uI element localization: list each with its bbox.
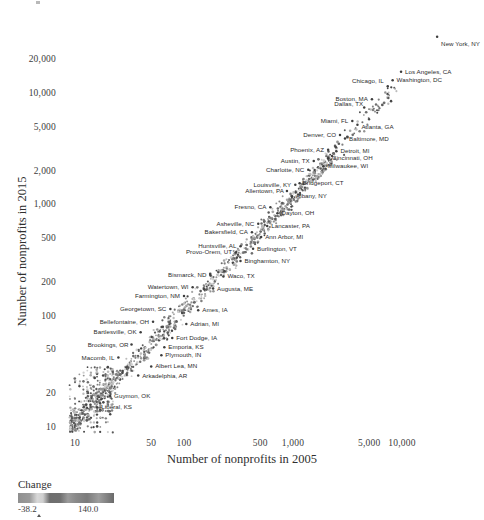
scatter-point — [176, 321, 178, 323]
scatter-point — [292, 191, 294, 193]
colorbar-min-label: -38.2 — [18, 504, 37, 514]
scatter-point — [96, 398, 98, 400]
scatter-point — [252, 235, 254, 237]
scatter-point — [184, 309, 186, 311]
point-label: Dayton, OH — [281, 210, 314, 216]
scatter-point — [209, 284, 211, 286]
scatter-point — [313, 172, 316, 175]
scatter-point — [152, 321, 155, 324]
scatter-point — [306, 175, 308, 177]
scatter-point — [153, 329, 155, 331]
scatter-point — [96, 406, 99, 409]
scatter-point — [163, 346, 166, 349]
scatter-point — [210, 275, 213, 278]
scatter-point — [210, 285, 212, 287]
scatter-point — [86, 407, 88, 409]
scatter-point — [314, 171, 316, 173]
scatter-point — [90, 371, 92, 373]
scatter-point — [277, 210, 279, 212]
scatter-point — [107, 396, 109, 398]
scatter-point — [75, 417, 77, 419]
scatter-point — [191, 286, 194, 289]
scatter-point — [322, 159, 325, 162]
scatter-point — [75, 428, 78, 431]
scatter-point — [73, 410, 76, 413]
scatter-point — [145, 347, 147, 349]
scatter-point — [72, 428, 75, 431]
scatter-point — [84, 408, 87, 411]
scatter-point — [96, 404, 98, 406]
scatter-point — [155, 344, 157, 346]
scatter-point — [250, 236, 252, 238]
scatter-point — [87, 395, 89, 397]
y-tick-20: 20 — [46, 388, 56, 398]
scatter-point — [232, 254, 234, 256]
scatter-point — [74, 398, 76, 400]
scatter-point — [114, 386, 116, 388]
scatter-point — [225, 266, 228, 269]
scatter-point — [89, 404, 92, 407]
scatter-point — [89, 406, 92, 409]
scatter-point — [233, 263, 236, 266]
scatter-point — [77, 414, 79, 416]
scatter-point — [116, 383, 118, 385]
scatter-point — [259, 233, 261, 235]
scatter-point — [107, 394, 109, 396]
scatter-point — [234, 259, 236, 261]
scatter-point — [370, 108, 372, 110]
scatter-point — [269, 217, 272, 220]
scatter-point — [104, 385, 107, 388]
scatter-point — [280, 205, 282, 207]
scatter-point — [387, 87, 389, 89]
scatter-point — [104, 378, 106, 380]
scatter-point — [103, 388, 105, 390]
scatter-point — [288, 197, 290, 199]
scatter-point — [85, 407, 87, 409]
scatter-point — [149, 339, 151, 341]
scatter-point — [103, 397, 105, 399]
scatter-point — [356, 120, 358, 122]
scatter-point — [111, 368, 113, 370]
scatter-point — [100, 397, 102, 399]
point-label: Ann Arbor, MI — [265, 234, 303, 240]
scatter-point — [108, 389, 110, 391]
scatter-point — [79, 412, 82, 415]
scatter-point — [256, 231, 258, 233]
scatter-point — [260, 219, 262, 221]
scatter-point — [79, 419, 81, 421]
scatter-point — [334, 145, 337, 148]
scatter-point — [108, 384, 110, 386]
scatter-point — [323, 163, 325, 165]
scatter-point — [358, 130, 361, 133]
scatter-point — [222, 270, 224, 272]
scatter-point — [146, 357, 149, 360]
y-tick-50: 50 — [46, 344, 56, 354]
scatter-point — [192, 298, 195, 301]
scatter-point — [329, 154, 331, 156]
scatter-point — [153, 340, 155, 342]
scatter-point — [235, 264, 237, 266]
scatter-point — [163, 331, 165, 333]
scatter-point — [286, 198, 288, 200]
scatter-point — [104, 386, 106, 388]
scatter-point — [145, 350, 148, 353]
point-label: Provo-Orem, UT — [186, 249, 232, 255]
scatter-point — [79, 408, 81, 410]
scatter-point — [252, 238, 254, 240]
scatter-point — [174, 324, 176, 326]
scatter-point — [79, 380, 81, 382]
scatter-point — [368, 117, 370, 119]
scatter-point — [77, 423, 80, 426]
scatter-point — [80, 409, 82, 411]
scatter-point — [192, 305, 194, 307]
scatter-point — [204, 293, 206, 295]
scatter-point — [78, 418, 80, 420]
scatter-point — [74, 423, 76, 425]
scatter-point — [112, 381, 115, 384]
scatter-point — [253, 237, 256, 240]
scatter-point — [327, 157, 330, 160]
scatter-point — [251, 231, 254, 234]
scatter-point — [105, 389, 107, 391]
scatter-point — [69, 395, 71, 397]
scatter-point — [289, 200, 291, 202]
